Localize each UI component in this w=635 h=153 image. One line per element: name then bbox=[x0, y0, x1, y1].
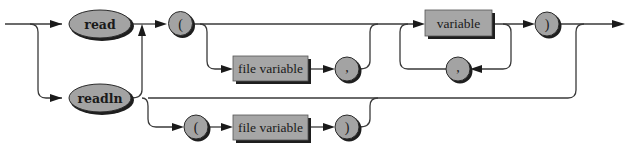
close-paren-upper-label: ) bbox=[545, 17, 550, 33]
arrow-up-icon bbox=[138, 24, 146, 36]
comma-upper-label: , bbox=[345, 60, 349, 75]
comma-loop-label: , bbox=[456, 60, 460, 75]
arrow-to-read-icon bbox=[50, 20, 62, 28]
symbol-open-paren-upper: ( bbox=[169, 12, 196, 39]
open-paren-lower-label: ( bbox=[194, 120, 199, 136]
open-paren-upper-label: ( bbox=[178, 17, 183, 33]
nonterminal-file-variable-upper: file variable bbox=[233, 56, 311, 84]
symbol-comma-loop: , bbox=[446, 57, 473, 84]
keyword-readln-label: readln bbox=[77, 91, 122, 106]
syntax-diagram: read readln ( file variable , variable , bbox=[0, 0, 635, 153]
symbol-open-paren-lower: ( bbox=[184, 115, 211, 142]
arrow-to-open-paren-icon bbox=[155, 20, 167, 28]
keyword-read: read bbox=[69, 10, 134, 41]
keyword-readln: readln bbox=[69, 84, 134, 115]
arrow-to-lower-open-paren-icon bbox=[172, 123, 184, 131]
nonterminal-file-variable-lower: file variable bbox=[233, 115, 311, 143]
symbol-close-paren-upper: ) bbox=[535, 12, 562, 39]
variable-label: variable bbox=[437, 16, 480, 31]
file-variable-upper-label: file variable bbox=[238, 61, 303, 76]
symbol-comma-upper: , bbox=[335, 57, 362, 84]
arrow-to-file-variable-icon bbox=[221, 65, 233, 73]
arrow-exit-icon bbox=[612, 20, 625, 28]
keyword-read-label: read bbox=[84, 17, 116, 32]
arrow-to-readln-icon bbox=[50, 94, 62, 102]
arrow-to-variable-icon bbox=[413, 20, 425, 28]
arrow-to-lower-file-variable-icon bbox=[221, 123, 233, 131]
arrow-to-lower-close-paren-icon bbox=[323, 123, 335, 131]
nonterminal-variable: variable bbox=[425, 10, 495, 39]
arrow-to-comma-icon bbox=[323, 65, 335, 73]
symbol-close-paren-lower: ) bbox=[335, 115, 362, 142]
close-paren-lower-label: ) bbox=[345, 120, 350, 136]
file-variable-lower-label: file variable bbox=[238, 120, 303, 135]
arrow-to-close-paren-icon bbox=[523, 20, 535, 28]
